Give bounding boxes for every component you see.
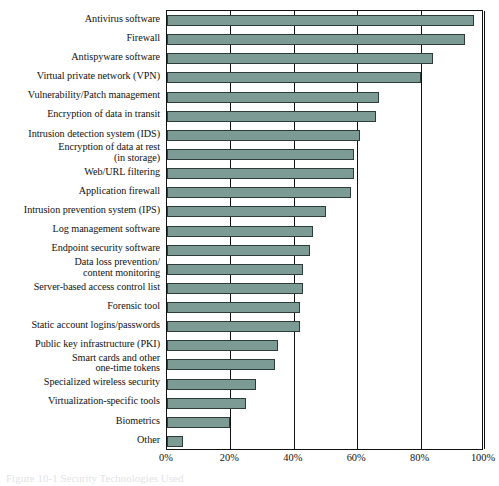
- bar-row: [167, 168, 484, 179]
- bar: [167, 168, 354, 179]
- category-label-line: Application firewall: [79, 185, 160, 196]
- bar-row: [167, 72, 484, 83]
- bar-row: [167, 302, 484, 313]
- bar: [167, 206, 326, 217]
- bar-row: [167, 436, 484, 447]
- category-label-line: Forensic tool: [107, 300, 160, 311]
- category-label-line: Specialized wireless security: [44, 376, 160, 387]
- category-label-line: one-time tokens: [72, 363, 160, 374]
- bar: [167, 34, 465, 45]
- plot-area: [166, 10, 483, 450]
- bar: [167, 53, 433, 64]
- bar: [167, 321, 300, 332]
- bar: [167, 187, 351, 198]
- bar-row: [167, 92, 484, 103]
- figure-caption: Figure 10-1 Security Technologies Used: [6, 472, 183, 484]
- bar-row: [167, 340, 484, 351]
- bar-row: [167, 264, 484, 275]
- category-label-line: Log management software: [53, 223, 160, 234]
- bar-row: [167, 111, 484, 122]
- category-label-line: Intrusion prevention system (IPS): [24, 204, 160, 215]
- bar-row: [167, 53, 484, 64]
- bar-row: [167, 321, 484, 332]
- bar-row: [167, 417, 484, 428]
- x-tick-label: 100%: [471, 452, 495, 463]
- bar: [167, 398, 246, 409]
- category-label-line: Firewall: [126, 32, 160, 43]
- category-label-line: Virtual private network (VPN): [37, 70, 160, 81]
- bar: [167, 15, 474, 26]
- x-tick-label: 80%: [410, 452, 429, 463]
- x-tick-label: 0%: [159, 452, 173, 463]
- category-label: Antispyware software: [71, 52, 160, 63]
- bar-row: [167, 283, 484, 294]
- bar: [167, 92, 379, 103]
- category-label-line: Static account logins/passwords: [31, 319, 160, 330]
- category-label: Application firewall: [79, 186, 160, 197]
- category-label-line: Smart cards and other: [72, 352, 160, 363]
- category-label-line: Public key infrastructure (PKI): [35, 338, 160, 349]
- bar: [167, 436, 183, 447]
- category-label: Smart cards and otherone-time tokens: [72, 353, 160, 374]
- bar-row: [167, 226, 484, 237]
- bar-row: [167, 379, 484, 390]
- category-label: Antivirus software: [85, 14, 160, 25]
- category-label: Intrusion detection system (IDS): [28, 129, 160, 140]
- bar-row: [167, 187, 484, 198]
- category-label: Log management software: [53, 224, 160, 235]
- category-label-line: Endpoint security software: [52, 242, 160, 253]
- category-label: Server-based access control list: [34, 282, 160, 293]
- bar: [167, 72, 421, 83]
- category-label-line: (in storage): [58, 153, 160, 164]
- figure-container: Antivirus softwareFirewallAntispyware so…: [0, 0, 499, 486]
- category-label-line: Antivirus software: [85, 13, 160, 24]
- category-label-line: Web/URL filtering: [84, 166, 160, 177]
- bar: [167, 111, 376, 122]
- category-label: Public key infrastructure (PKI): [35, 339, 160, 350]
- x-axis: 0%20%40%60%80%100%: [166, 452, 483, 468]
- category-label: Endpoint security software: [52, 243, 160, 254]
- category-label: Web/URL filtering: [84, 167, 160, 178]
- bar: [167, 379, 256, 390]
- bar: [167, 226, 313, 237]
- category-label-line: Data loss prevention/: [74, 256, 160, 267]
- bar: [167, 359, 275, 370]
- bar-row: [167, 34, 484, 45]
- category-label: Encryption of data at rest(in storage): [58, 142, 160, 163]
- category-label-line: Vulnerability/Patch management: [28, 89, 160, 100]
- bar: [167, 340, 278, 351]
- category-label: Specialized wireless security: [44, 377, 160, 388]
- category-label: Other: [137, 435, 160, 446]
- bar-row: [167, 149, 484, 160]
- x-tick-label: 20%: [220, 452, 239, 463]
- bar: [167, 245, 310, 256]
- bar: [167, 417, 230, 428]
- bar-row: [167, 245, 484, 256]
- bar: [167, 130, 360, 141]
- bar-row: [167, 130, 484, 141]
- category-label-line: Server-based access control list: [34, 281, 160, 292]
- category-label-line: content monitoring: [74, 268, 160, 279]
- category-label: Intrusion prevention system (IPS): [24, 205, 160, 216]
- gridline-100pct: [484, 11, 485, 449]
- bar-row: [167, 398, 484, 409]
- category-label: Virtualization-specific tools: [48, 396, 160, 407]
- bar-row: [167, 206, 484, 217]
- category-label: Forensic tool: [107, 301, 160, 312]
- bar-row: [167, 15, 484, 26]
- category-label: Biometrics: [116, 416, 160, 427]
- bar: [167, 149, 354, 160]
- category-label: Vulnerability/Patch management: [28, 90, 160, 101]
- category-label-line: Encryption of data in transit: [47, 108, 160, 119]
- category-label-line: Intrusion detection system (IDS): [28, 128, 160, 139]
- category-label-line: Virtualization-specific tools: [48, 395, 160, 406]
- category-label-line: Biometrics: [116, 415, 160, 426]
- category-label: Encryption of data in transit: [47, 109, 160, 120]
- category-label-line: Other: [137, 434, 160, 445]
- bar-row: [167, 359, 484, 370]
- category-label-line: Encryption of data at rest: [58, 141, 160, 152]
- category-label: Static account logins/passwords: [31, 320, 160, 331]
- category-label-line: Antispyware software: [71, 51, 160, 62]
- bar: [167, 302, 300, 313]
- category-label: Virtual private network (VPN): [37, 71, 160, 82]
